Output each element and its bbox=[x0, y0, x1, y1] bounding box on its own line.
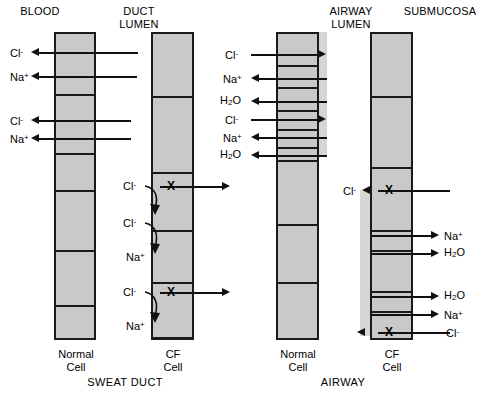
ion-text: Na bbox=[10, 71, 24, 83]
ion-label-sodium: Na+ bbox=[126, 319, 145, 332]
ion-text-tail: O bbox=[232, 148, 241, 160]
transport-arrow-cl-1 bbox=[251, 54, 321, 56]
transport-arrow-h2o-1 bbox=[372, 253, 434, 255]
ion-label-sodium: Na+ bbox=[10, 132, 29, 145]
arrowhead-left bbox=[31, 48, 39, 56]
ion-charge: - bbox=[133, 217, 136, 226]
ion-charge: + bbox=[237, 73, 242, 82]
ion-label-chloride: Cl- bbox=[123, 179, 136, 192]
cell-caption-normal-airway: Normal Cell bbox=[263, 348, 333, 374]
blocked-channel-marker: X bbox=[385, 326, 393, 338]
ion-label-chloride: Cl- bbox=[123, 216, 136, 229]
ion-label-sodium: Na+ bbox=[10, 70, 29, 83]
arrowhead-right bbox=[431, 231, 439, 239]
transport-arrow-cl-2 bbox=[251, 119, 321, 121]
cell-divider bbox=[372, 311, 411, 313]
ion-charge: - bbox=[456, 327, 459, 336]
reflected-ion-path-1 bbox=[139, 182, 181, 224]
ion-label-chloride: Cl- bbox=[10, 114, 23, 127]
ion-charge: - bbox=[353, 185, 356, 194]
cell-divider bbox=[372, 96, 411, 98]
transport-arrow-na-2 bbox=[258, 137, 327, 139]
ion-text: Na bbox=[10, 133, 24, 145]
cell-divider bbox=[278, 65, 317, 67]
ion-text: Cl bbox=[10, 115, 20, 127]
ion-text: H bbox=[220, 148, 228, 160]
ion-text: Na bbox=[126, 320, 140, 332]
ion-charge: + bbox=[140, 320, 145, 329]
ion-label-sodium: Na+ bbox=[444, 229, 463, 242]
figure-canvas: BLOOD DUCT LUMEN AIRWAY LUMEN SUBMUCOSA … bbox=[0, 0, 484, 396]
ion-label-sodium: Na+ bbox=[126, 250, 145, 263]
ion-text: Na bbox=[223, 73, 237, 85]
header-blood: BLOOD bbox=[10, 5, 70, 18]
cell-divider bbox=[278, 160, 317, 162]
cell-divider bbox=[372, 250, 411, 252]
ion-text-tail: O bbox=[456, 289, 465, 301]
transport-arrow-na-2 bbox=[38, 138, 131, 140]
ion-text: Na bbox=[444, 309, 458, 321]
arrowhead-right bbox=[318, 50, 326, 58]
ion-label-sodium: Na+ bbox=[223, 131, 242, 144]
reflected-ion-path-2 bbox=[139, 219, 181, 265]
ion-charge: + bbox=[24, 133, 29, 142]
cell-divider bbox=[278, 129, 317, 131]
section-label-airway: AIRWAY bbox=[288, 376, 398, 388]
transport-arrow-na-1 bbox=[372, 235, 434, 237]
ion-text: Na bbox=[126, 251, 140, 263]
ion-text: Cl bbox=[10, 47, 20, 59]
transport-arrow-cl-2 bbox=[38, 120, 131, 122]
arrowhead-left bbox=[362, 186, 370, 194]
ion-text: Cl bbox=[225, 49, 235, 61]
cell-divider bbox=[56, 94, 94, 96]
cell-caption-cf-airway: CF Cell bbox=[357, 348, 427, 374]
cell-divider bbox=[278, 87, 317, 89]
ion-label-chloride: Cl- bbox=[123, 285, 136, 298]
header-duct-lumen: DUCT LUMEN bbox=[106, 5, 172, 30]
transport-arrow-h2o-2 bbox=[258, 155, 327, 157]
ion-text-tail: O bbox=[232, 94, 241, 106]
arrowhead-right bbox=[318, 115, 326, 123]
arrowhead-left bbox=[31, 72, 39, 80]
ion-charge: + bbox=[140, 251, 145, 260]
cell-column-sweat-duct-normal bbox=[54, 32, 96, 340]
header-airway-lumen: AIRWAY LUMEN bbox=[318, 5, 384, 30]
arrowhead-right bbox=[222, 288, 230, 296]
transport-arrow-h2o-2 bbox=[372, 296, 434, 298]
arrowhead-left bbox=[357, 328, 365, 336]
ion-charge: - bbox=[133, 180, 136, 189]
ion-text: Na bbox=[223, 132, 237, 144]
arrowhead-right bbox=[222, 182, 230, 190]
cell-divider bbox=[372, 291, 411, 293]
section-label-sweat-duct: SWEAT DUCT bbox=[60, 376, 190, 388]
ion-label-chloride: Cl- bbox=[10, 46, 23, 59]
ion-label-chloride: Cl- bbox=[343, 184, 356, 197]
arrowhead-right bbox=[431, 310, 439, 318]
blocked-channel-marker: X bbox=[385, 184, 393, 196]
arrowhead-left bbox=[251, 74, 259, 82]
ion-charge: - bbox=[133, 286, 136, 295]
cell-divider bbox=[56, 250, 94, 252]
ion-label-chloride: Cl- bbox=[225, 48, 238, 61]
transport-arrow-na-2 bbox=[372, 314, 434, 316]
ion-label-water: H2O bbox=[444, 247, 465, 260]
ion-text: H bbox=[444, 289, 452, 301]
cell-divider bbox=[153, 282, 192, 284]
arrowhead-left bbox=[251, 151, 259, 159]
ion-text: Cl bbox=[123, 286, 133, 298]
ion-charge: - bbox=[20, 47, 23, 56]
cell-caption-normal-sweat: Normal Cell bbox=[41, 348, 111, 374]
ion-label-chloride: Cl- bbox=[446, 326, 459, 339]
ion-label-chloride: Cl- bbox=[225, 113, 238, 126]
cell-divider bbox=[278, 282, 317, 284]
cell-divider bbox=[153, 172, 192, 174]
header-submucosa: SUBMUCOSA bbox=[400, 5, 480, 18]
ion-charge: - bbox=[235, 114, 238, 123]
cell-divider bbox=[56, 153, 94, 155]
ion-charge: - bbox=[235, 49, 238, 58]
cell-divider bbox=[372, 230, 411, 232]
cell-divider bbox=[278, 110, 317, 112]
cell-divider bbox=[153, 337, 192, 339]
ion-label-sodium: Na+ bbox=[223, 72, 242, 85]
cell-divider bbox=[56, 190, 94, 192]
